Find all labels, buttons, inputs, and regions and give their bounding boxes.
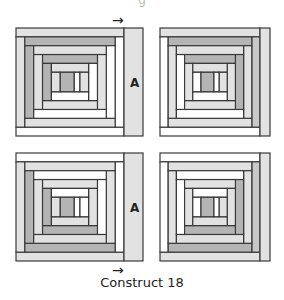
log-strip-left [43,63,52,100]
log-strip-top [168,162,252,171]
log-strip-right [252,37,260,127]
log-strip-top [25,162,115,171]
log-strip-bottom [160,252,260,261]
log-strip-left [16,37,25,127]
log-strip-bottom [16,127,124,136]
log-strip-right [89,63,98,100]
log-strip-bottom [43,226,98,235]
log-strip-right [80,197,89,216]
log-strip-right [89,188,98,225]
log-strip-bottom [185,226,236,235]
log-strip-right [227,188,235,225]
log-strip-top [16,28,124,37]
log-strip-right [97,180,106,235]
log-strip-left [168,171,176,244]
log-strip-bottom [43,101,98,110]
center-square [201,197,214,216]
log-strip-top [176,171,243,180]
log-strip-left [160,162,168,252]
log-strip-right [115,37,124,127]
log-strip-top [160,28,260,37]
center-side-log [74,197,79,216]
log-strip-bottom [34,234,107,243]
log-strip-top [43,55,98,64]
center-square [60,197,74,216]
log-strip-left [160,37,168,127]
log-strip-bottom [176,234,243,243]
arrow-top-icon: → [112,13,124,27]
log-strip-left [16,162,25,252]
log-strip-bottom [185,101,236,110]
log-strip-left [185,63,193,100]
center-square [60,72,74,91]
log-strip-top [51,63,88,72]
log-strip-top [16,153,124,162]
log-strip-left [25,171,34,244]
log-strip-right [97,55,106,110]
block-top-left [16,28,143,136]
log-strip-top [43,180,98,189]
log-strip-right [80,72,89,91]
log-strip-right [235,55,243,110]
log-strip-bottom [168,118,252,127]
log-strip-right [106,46,115,119]
log-strip-bottom [193,217,227,226]
log-strip-top [168,37,252,46]
log-strip-bottom [16,252,124,261]
log-strip-left [43,188,52,225]
log-strip-top [176,46,243,55]
log-strip-right [106,171,115,244]
label-a-top: A [130,76,139,90]
log-strip-left [176,180,184,235]
log-strip-bottom [176,109,243,118]
figure-caption: Construct 18 [0,275,284,290]
log-strip-top [34,46,107,55]
center-side-log [214,197,219,216]
log-strip-bottom [25,243,115,252]
center-side-log [214,72,219,91]
log-strip-right [227,63,235,100]
log-strip-right [235,180,243,235]
log-strip-bottom [160,127,260,136]
log-strip-bottom [25,118,115,127]
log-strip-right [244,46,252,119]
log-strip-top [185,180,236,189]
log-strip-bottom [51,217,88,226]
center-square [201,72,214,91]
log-strip-left [34,180,43,235]
log-strip-left [193,197,201,216]
log-strip-right [252,162,260,252]
log-strip-bottom [34,109,107,118]
log-strip-top [193,188,227,197]
center-side-log [74,72,79,91]
log-strip-left [51,72,60,91]
log-strip-right [115,162,124,252]
block-top-right [160,28,270,136]
log-strip-top [160,153,260,162]
block-bottom-right [160,153,270,261]
log-strip-top [185,55,236,64]
log-strip-right [244,171,252,244]
log-strip-left [34,55,43,110]
log-strip-bottom [51,92,88,101]
log-strip-top [34,171,107,180]
log-strip-left [193,72,201,91]
block-bottom-left [16,153,143,261]
log-strip-top [193,63,227,72]
block-bottom-right-strip [260,153,270,261]
log-strip-right [219,197,227,216]
log-strip-left [25,46,34,119]
block-top-right-strip [260,28,270,136]
log-strip-top [51,188,88,197]
log-strip-right [219,72,227,91]
log-strip-left [176,55,184,110]
log-strip-bottom [168,243,252,252]
log-strip-left [51,197,60,216]
log-strip-top [25,37,115,46]
label-a-bottom: A [130,201,139,215]
log-strip-left [185,188,193,225]
log-strip-bottom [193,92,227,101]
log-cabin-blocks-diagram [0,0,284,300]
log-strip-left [168,46,176,119]
